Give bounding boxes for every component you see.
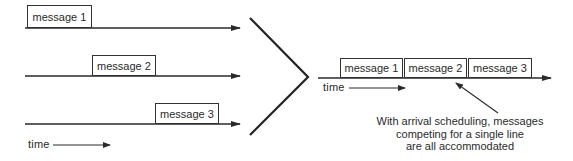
- message-box-1: message 1: [27, 5, 92, 28]
- time-label-left: time: [28, 138, 50, 150]
- time-label-right: time: [323, 81, 345, 93]
- message-box-3: message 3: [155, 103, 219, 124]
- merged-message-box-2: message 2: [404, 58, 467, 78]
- message-label: message 2: [409, 62, 463, 74]
- message-label: message 2: [97, 60, 151, 72]
- caption-line-3: are all accommodated: [360, 140, 560, 153]
- message-label: message 1: [33, 11, 87, 23]
- merge-chevron: [250, 18, 308, 135]
- message-label: message 1: [345, 62, 399, 74]
- message-box-2: message 2: [92, 55, 156, 76]
- caption-line-2: competing for a single line: [360, 128, 560, 141]
- message-label: message 3: [160, 108, 214, 120]
- caption-line-1: With arrival scheduling, messages: [360, 115, 560, 128]
- caption: With arrival scheduling, messages compet…: [360, 115, 560, 153]
- merged-message-box-3: message 3: [468, 58, 532, 78]
- merged-message-box-1: message 1: [340, 58, 403, 78]
- pointer-arrow: [456, 83, 498, 113]
- message-label: message 3: [473, 62, 527, 74]
